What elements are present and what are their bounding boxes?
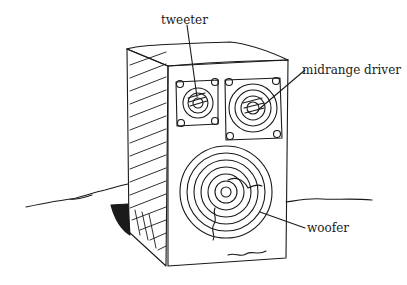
- speaker-drawing: [0, 0, 407, 285]
- woofer-leader: [260, 212, 305, 228]
- speaker-diagram: tweeter midrange driver woofer: [0, 0, 407, 285]
- floor-line-right: [286, 199, 372, 202]
- midrange-plate: [225, 78, 282, 140]
- midrange-cone: [229, 84, 277, 132]
- tweeter-label: tweeter: [161, 13, 208, 27]
- cabinet-side: [127, 49, 168, 266]
- tweeter-leader: [187, 25, 197, 97]
- floor-line-left: [26, 184, 128, 207]
- side-hatching: [130, 52, 166, 250]
- midrange-driver-label: midrange driver: [302, 63, 401, 77]
- midrange-leader: [258, 70, 305, 110]
- woofer-label: woofer: [307, 221, 349, 235]
- shadow: [111, 204, 130, 235]
